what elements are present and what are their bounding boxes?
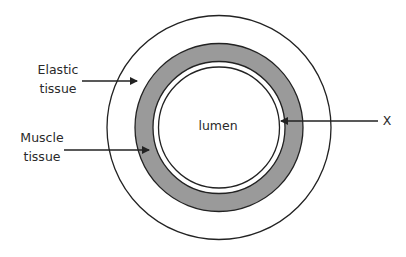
elastic-tissue-label: Elastic tissue xyxy=(34,60,82,98)
muscle-label-line1: Muscle xyxy=(18,128,66,147)
elastic-label-line1: Elastic xyxy=(34,60,82,79)
elastic-label-line2: tissue xyxy=(34,79,82,98)
lumen-label: lumen xyxy=(193,116,243,135)
muscle-tissue-label: Muscle tissue xyxy=(18,128,66,166)
muscle-label-line2: tissue xyxy=(18,147,66,166)
x-label: X xyxy=(380,111,394,130)
